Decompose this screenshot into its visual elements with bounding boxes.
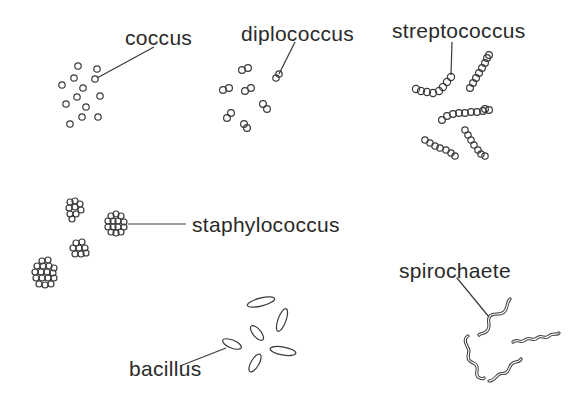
bacillus-leader-line <box>180 348 226 366</box>
spirochaete-illustration <box>457 278 559 381</box>
staph-cluster-4 <box>32 257 57 288</box>
streptococcus-illustration <box>412 42 492 159</box>
staph-cluster-2 <box>105 211 127 236</box>
diplococcus-illustration <box>220 42 295 131</box>
coccus-leader-line <box>97 47 154 78</box>
bacillus-illustration <box>180 295 296 374</box>
spirochaete-leader-line <box>457 278 489 317</box>
staph-cluster-1 <box>66 198 84 222</box>
streptococcus-leader-line <box>451 42 452 75</box>
coccus-illustration <box>59 47 154 127</box>
staphylococcus-illustration <box>32 198 186 288</box>
diplococcus-leader-line <box>279 42 295 74</box>
staph-cluster-3 <box>70 239 89 257</box>
bacteria-shapes-diagram: coccus diplococcus streptococcus staphyl… <box>0 0 581 412</box>
diagram-drawing <box>0 0 581 412</box>
